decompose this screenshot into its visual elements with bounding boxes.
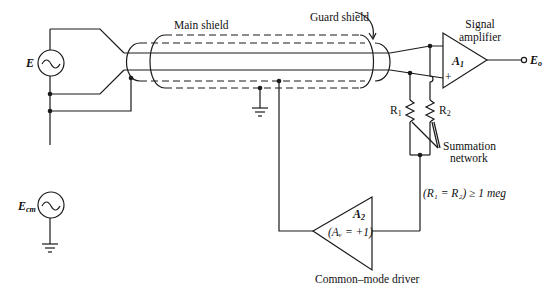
summation-network [372, 46, 440, 231]
amp1-label: A1 [451, 54, 464, 69]
main-shield [150, 35, 374, 116]
source-ecm [38, 192, 64, 252]
signal-amplifier-label-1: Signal [465, 18, 494, 31]
source-ecm-label: Ecm [17, 199, 36, 214]
main-shield-label: Main shield [174, 19, 229, 31]
summation-label-1: Summation [443, 140, 496, 152]
junction-dots [48, 44, 433, 158]
resistor-condition-label: (R₁ = R₂) ≥ 1 meg [423, 187, 506, 200]
r1-label: R1 [390, 104, 402, 118]
circuit-diagram: Main shield Guard shield Signal amplifie… [0, 0, 557, 299]
guard-drive-wire [279, 81, 313, 231]
summation-label-2: network [450, 152, 488, 164]
signal-conductors [124, 46, 443, 78]
amp1-plus-label: + [445, 71, 452, 83]
source-e [38, 29, 64, 145]
amp2-gain-label: (Aᵥ = +1) [328, 226, 373, 239]
output-label: Eo [529, 53, 542, 68]
amp2-label: A2 [352, 207, 365, 222]
guard-shield-label: Guard shield [310, 11, 369, 23]
source-e-label: E [25, 56, 34, 70]
r2-label: R2 [439, 104, 451, 118]
signal-amplifier-label-2: amplifier [459, 31, 501, 44]
common-mode-driver-label: Common–mode driver [315, 273, 420, 285]
